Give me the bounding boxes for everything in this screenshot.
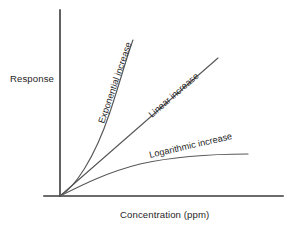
curve-label-exponential: Exponential increase — [96, 41, 133, 125]
curve-label-linear: Linear increase — [147, 71, 201, 120]
y-axis-title: Response — [10, 73, 54, 84]
x-axis-title: Concentration (ppm) — [120, 209, 209, 220]
chart-figure: Exponential increase Linear increase Log… — [0, 0, 290, 233]
curve-label-logarithmic: Logarithmic increase — [148, 131, 233, 160]
chart-plot-area: Exponential increase Linear increase Log… — [0, 0, 290, 233]
curve-logarithmic — [60, 154, 248, 196]
